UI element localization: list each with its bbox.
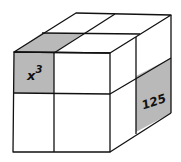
cube-svg: x3 125 xyxy=(0,0,181,162)
cube-diagram: x3 125 xyxy=(0,0,181,162)
shaded-top-face-square xyxy=(14,33,82,53)
